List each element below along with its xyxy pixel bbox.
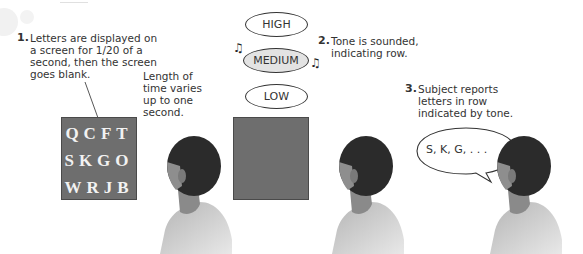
step-number: 2. [318,35,330,47]
decorative-circle [0,8,18,36]
tone-label: LOW [264,90,289,103]
tone-label: MEDIUM [253,54,299,67]
letter-display-screen: QCFT SKGO WRJB [61,117,137,200]
tone-low: LOW [245,84,308,109]
pointer-line [82,80,102,120]
step-number: 3. [405,83,417,95]
letter-row-2: SKGO [62,147,136,174]
step-2-caption: 2. Tone is sounded, indicating row. [318,35,458,61]
decorative-circle [20,10,34,24]
subject-person-3 [470,130,565,254]
music-note-icon: ♫ [233,41,244,55]
letter-row-3: WRJB [62,174,136,201]
step-number: 1. [17,32,29,44]
tone-high: HIGH [245,12,308,37]
letter-grid: QCFT SKGO WRJB [62,118,136,201]
delay-note: Length of time varies up to one second. [143,70,202,118]
step-text: Letters are displayed on a screen for 1/… [30,32,157,80]
step-text: Tone is sounded, indicating row. [331,35,419,59]
step-text: Subject reports letters in row indicated… [418,83,513,119]
blank-screen [233,117,309,200]
top-rule [60,2,88,3]
tone-label: HIGH [262,18,290,31]
subject-person-1 [140,130,235,254]
step-3-caption: 3. Subject reports letters in row indica… [405,83,535,121]
subject-person-2 [312,130,407,254]
letter-row-1: QCFT [62,120,136,147]
tone-medium: MEDIUM [243,48,309,73]
